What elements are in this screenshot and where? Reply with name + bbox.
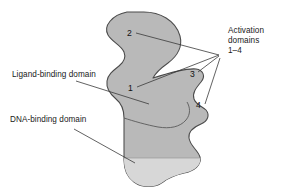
callout-number-4: 4: [196, 101, 201, 110]
receptor-domain-figure: Activation domains 1–4 Ligand-binding do…: [0, 0, 281, 190]
callout-number-3: 3: [190, 70, 195, 79]
ligand-binding-domain-label: Ligand-binding domain: [12, 70, 96, 80]
receptor-body-group: [100, 12, 220, 190]
dna-binding-domain-label: DNA-binding domain: [10, 115, 86, 125]
callout-number-2: 2: [127, 29, 132, 38]
dna-binding-region: [100, 158, 220, 190]
callout-number-1: 1: [128, 84, 133, 93]
activation-domains-label: Activation domains 1–4: [228, 26, 264, 57]
